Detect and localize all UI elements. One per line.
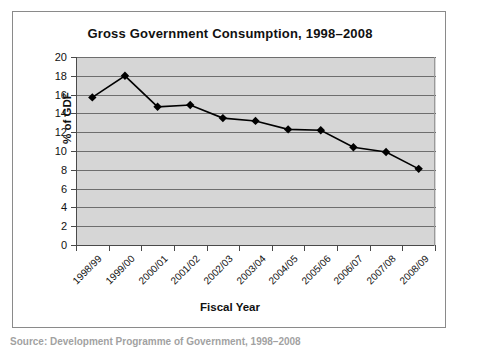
x-tick-mark [76, 246, 77, 251]
x-tick-label: 1998/99 [68, 253, 104, 289]
data-point-marker [88, 93, 96, 101]
y-tick-label: 8 [39, 164, 67, 176]
y-tick-label: 20 [39, 51, 67, 63]
x-tick-mark [370, 246, 371, 251]
x-tick-mark [304, 246, 305, 251]
y-tick-label: 10 [39, 145, 67, 157]
y-tick-label: 12 [39, 126, 67, 138]
y-tick-mark [71, 170, 76, 171]
data-point-marker [219, 114, 227, 122]
data-point-marker [414, 165, 422, 173]
y-tick-mark [71, 76, 76, 77]
y-tick-label: 6 [39, 183, 67, 195]
x-tick-mark [239, 246, 240, 251]
y-tick-mark [71, 207, 76, 208]
data-point-marker [284, 125, 292, 133]
x-tick-label: 2001/02 [166, 253, 202, 289]
x-tick-mark [435, 246, 436, 251]
x-tick-mark [174, 246, 175, 251]
x-tick-mark [337, 246, 338, 251]
x-tick-label: 1999/00 [101, 253, 137, 289]
y-tick-mark [71, 57, 76, 58]
chart-card: Gross Government Consumption, 1998–2008 … [12, 11, 446, 328]
x-tick-label: 2002/03 [199, 253, 235, 289]
y-tick-mark [71, 132, 76, 133]
y-tick-label: 18 [39, 70, 67, 82]
data-point-marker [382, 148, 390, 156]
y-tick-label: 2 [39, 220, 67, 232]
x-tick-mark [402, 246, 403, 251]
x-tick-label: 2008/09 [394, 253, 430, 289]
y-tick-mark [71, 189, 76, 190]
y-tick-mark [71, 95, 76, 96]
y-tick-label: 4 [39, 201, 67, 213]
y-tick-label: 14 [39, 107, 67, 119]
x-tick-label: 2003/04 [231, 253, 267, 289]
y-tick-mark [71, 226, 76, 227]
x-tick-mark [272, 246, 273, 251]
data-series-line [76, 57, 435, 246]
chart-title: Gross Government Consumption, 1998–2008 [13, 26, 447, 41]
x-tick-label: 2006/07 [329, 253, 365, 289]
y-tick-mark [71, 151, 76, 152]
data-point-marker [317, 126, 325, 134]
data-point-marker [186, 101, 194, 109]
x-tick-mark [109, 246, 110, 251]
y-tick-label: 0 [39, 239, 67, 251]
x-axis-title: Fiscal Year [13, 301, 447, 313]
figure-caption: Source: Development Programme of Governm… [10, 336, 470, 347]
data-point-marker [251, 117, 259, 125]
x-tick-label: 2000/01 [133, 253, 169, 289]
x-tick-mark [207, 246, 208, 251]
x-tick-label: 2005/06 [296, 253, 332, 289]
y-tick-label: 16 [39, 89, 67, 101]
y-tick-mark [71, 113, 76, 114]
x-tick-mark [141, 246, 142, 251]
data-point-marker [349, 143, 357, 151]
x-tick-label: 2007/08 [362, 253, 398, 289]
x-tick-label: 2004/05 [264, 253, 300, 289]
